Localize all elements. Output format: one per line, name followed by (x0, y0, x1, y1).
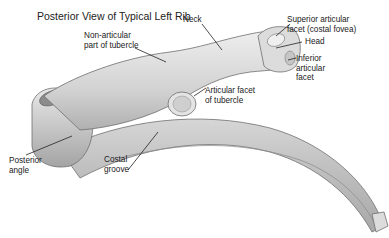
rib-illustration (0, 0, 389, 238)
label-articular-facet-tubercle: Articular facet of tubercle (205, 86, 255, 105)
label-neck: Neck (183, 15, 202, 25)
label-non-articular-part: Non-articular part of tubercle (84, 31, 139, 50)
label-head: Head (305, 37, 325, 47)
rib-diagram: Posterior View of Typical Left Rib Neck … (0, 0, 389, 238)
label-posterior-angle: Posterior angle (9, 156, 42, 175)
diagram-title: Posterior View of Typical Left Rib (37, 10, 191, 22)
rib-neck (44, 31, 296, 130)
label-costal-groove: Costal groove (104, 155, 129, 174)
rib-shaft (60, 119, 384, 232)
label-superior-articular-facet: Superior articular facet (costal fovea) (287, 15, 356, 34)
label-inferior-articular-facet: Inferior articular facet (296, 54, 325, 83)
